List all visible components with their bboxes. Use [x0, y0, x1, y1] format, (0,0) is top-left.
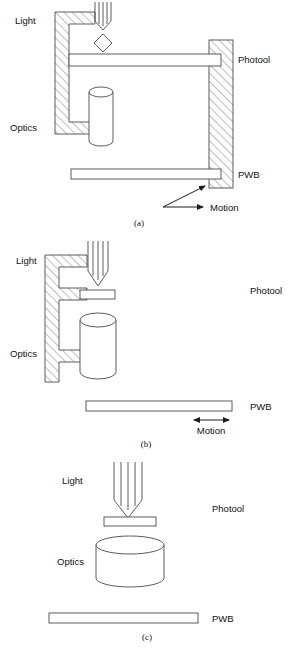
label-photool-b: Photool — [250, 285, 282, 296]
label-photool-a: Photool — [238, 54, 270, 65]
light-beam-icon-b — [88, 241, 108, 286]
label-light-c: Light — [62, 475, 83, 486]
photool-bar — [69, 54, 221, 66]
panel-b: Light Optics Photool PWB Motion (b) — [10, 241, 282, 449]
label-light-a: Light — [15, 15, 36, 26]
label-optics-a: Optics — [10, 122, 37, 133]
pwb-bar-c — [49, 613, 198, 623]
pwb-bar-b — [86, 401, 232, 411]
motion-arrows — [163, 186, 205, 207]
pwb-bar — [71, 169, 221, 179]
beam-diamond-icon — [94, 34, 112, 52]
photool-bar-b — [80, 290, 115, 299]
label-pwb-b: PWB — [250, 401, 272, 412]
optics-cylinder-c — [96, 536, 164, 587]
technical-diagram: Light Optics Photool PWB Motion (a) — [0, 0, 294, 653]
light-beam-icon — [95, 2, 111, 30]
label-photool-c: Photool — [212, 503, 244, 514]
panel-c: Light Optics Photool PWB (c) — [49, 462, 244, 642]
caption-c: (c) — [142, 632, 152, 642]
label-pwb-c: PWB — [212, 613, 234, 624]
label-motion-b: Motion — [197, 425, 226, 436]
panel-a: Light Optics Photool PWB Motion (a) — [10, 2, 270, 228]
label-motion-a: Motion — [210, 202, 239, 213]
caption-a: (a) — [134, 218, 144, 228]
figure-container: Light Optics Photool PWB Motion (a) — [0, 0, 294, 653]
optics-cylinder — [89, 87, 113, 146]
photool-bar-c — [104, 517, 156, 526]
caption-b: (b) — [141, 439, 152, 449]
label-optics-c: Optics — [57, 556, 84, 567]
light-beam-icon-c — [114, 462, 142, 518]
label-light-b: Light — [16, 255, 37, 266]
label-pwb-a: PWB — [238, 169, 260, 180]
optics-cylinder-b — [80, 313, 116, 379]
label-optics-b: Optics — [10, 348, 37, 359]
